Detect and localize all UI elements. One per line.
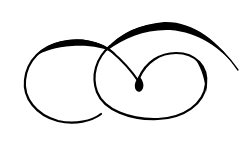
left-loop-stroke bbox=[25, 40, 139, 122]
top-arc-stroke bbox=[106, 24, 238, 70]
flourish-ornament-icon bbox=[0, 0, 250, 160]
right-loop-stroke bbox=[95, 46, 207, 119]
flourish-artwork: Calligraphic flourish ornament bbox=[0, 0, 250, 160]
